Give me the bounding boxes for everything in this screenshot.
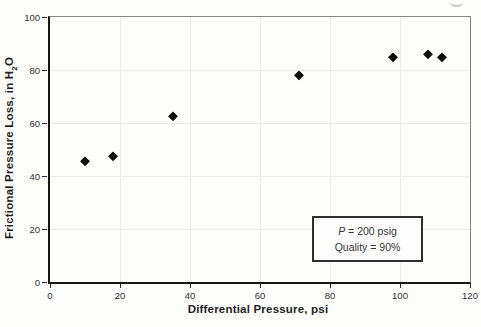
y-axis-tick: [42, 282, 47, 283]
y-tick-label: 0: [10, 277, 40, 288]
x-axis-tick: [260, 284, 261, 288]
gridline-vertical: [120, 17, 121, 282]
y-axis-title: Frictional Pressure Loss, in H2O: [3, 57, 18, 239]
y-axis-tick: [42, 176, 47, 177]
y-tick-label: 20: [10, 224, 40, 235]
x-axis-tick: [190, 284, 191, 288]
gridline-vertical: [190, 17, 191, 282]
x-tick-label: 80: [315, 290, 345, 301]
y-axis-tick: [42, 123, 47, 124]
x-tick-label: 60: [245, 290, 275, 301]
gridline-horizontal: [50, 70, 470, 71]
scatter-chart-figure: Frictional Pressure Loss, in H2O P = 200…: [0, 0, 481, 327]
gridline-horizontal: [50, 123, 470, 124]
x-axis-title: Differential Pressure, psi: [48, 303, 468, 315]
data-point-marker: [423, 49, 432, 58]
data-point-marker: [108, 152, 117, 161]
gridline-horizontal: [50, 176, 470, 177]
y-tick-label: 40: [10, 171, 40, 182]
scan-artifact: [450, 0, 463, 7]
x-tick-label: 0: [35, 290, 65, 301]
x-tick-label: 40: [175, 290, 205, 301]
x-axis-tick: [470, 284, 471, 288]
x-axis-tick: [50, 284, 51, 288]
annotation-box: P = 200 psig Quality = 90%: [312, 216, 423, 262]
gridline-vertical: [260, 17, 261, 282]
x-axis-tick: [400, 284, 401, 288]
data-point-marker: [80, 157, 89, 166]
y-tick-label: 100: [10, 12, 40, 23]
x-axis-tick: [120, 284, 121, 288]
annotation-pressure-value: = 200 psig: [345, 225, 397, 237]
y-axis-title-pre: Frictional Pressure Loss, in H: [3, 71, 15, 239]
data-point-marker: [168, 112, 177, 121]
annotation-line-pressure: P = 200 psig: [338, 225, 397, 238]
y-tick-label: 80: [10, 65, 40, 76]
y-axis-tick: [42, 70, 47, 71]
y-axis-tick: [42, 229, 47, 230]
x-axis-tick: [330, 284, 331, 288]
plot-area: P = 200 psig Quality = 90% 0204060801001…: [48, 16, 471, 284]
x-tick-label: 120: [455, 290, 481, 301]
x-tick-label: 100: [385, 290, 415, 301]
data-point-marker: [437, 52, 446, 61]
x-tick-label: 20: [105, 290, 135, 301]
data-point-marker: [388, 52, 397, 61]
data-point-marker: [294, 71, 303, 80]
y-tick-label: 60: [10, 118, 40, 129]
annotation-line-quality: Quality = 90%: [335, 241, 401, 254]
y-axis-tick: [42, 17, 47, 18]
